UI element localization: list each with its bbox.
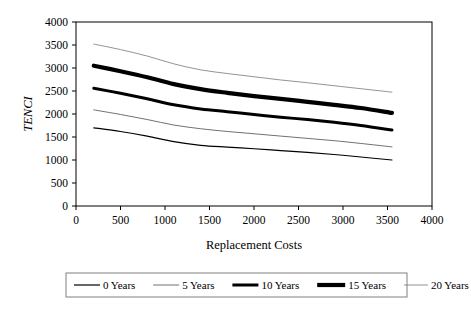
legend-items: 0 Years5 Years10 Years15 Years20 Years: [74, 279, 469, 291]
x-tick-label: 3500: [376, 214, 399, 226]
y-tick-label: 2000: [45, 108, 68, 120]
x-tick-label: 1500: [198, 214, 221, 226]
x-axis-title: Replacement Costs: [206, 238, 302, 252]
series-line-20-years: [94, 44, 392, 92]
chart-figure: 05001000150020002500300035004000 0500100…: [0, 0, 471, 311]
line-chart: 05001000150020002500300035004000 0500100…: [0, 0, 471, 311]
y-tick-label: 3000: [45, 62, 68, 74]
y-tick-label: 3500: [45, 39, 68, 51]
y-tick-label: 500: [51, 177, 69, 189]
series-line-5-years: [94, 110, 392, 147]
x-tick-label: 2000: [243, 214, 266, 226]
y-tick-label: 0: [62, 200, 68, 212]
legend-label-5-years: 5 Years: [182, 279, 214, 291]
legend-label-0-years: 0 Years: [103, 279, 135, 291]
x-tick-label: 2500: [287, 214, 310, 226]
x-tick-label: 1000: [154, 214, 177, 226]
x-axis: 05001000150020002500300035004000: [73, 206, 444, 226]
y-tick-label: 2500: [45, 85, 68, 97]
data-series-group: [94, 44, 392, 160]
legend-label-15-years: 15 Years: [348, 279, 386, 291]
y-tick-label: 4000: [45, 16, 68, 28]
y-axis-title: TENCI: [21, 95, 35, 131]
y-axis: 05001000150020002500300035004000: [45, 16, 76, 212]
legend-label-10-years: 10 Years: [261, 279, 299, 291]
x-tick-label: 3000: [332, 214, 355, 226]
y-tick-label: 1500: [45, 131, 68, 143]
legend-label-20-years: 20 Years: [431, 279, 469, 291]
chart-legend: 0 Years5 Years10 Years15 Years20 Years: [66, 273, 469, 297]
x-tick-label: 500: [112, 214, 130, 226]
series-line-15-years: [94, 66, 392, 113]
x-tick-label: 0: [73, 214, 79, 226]
x-tick-label: 4000: [421, 214, 444, 226]
y-tick-label: 1000: [45, 154, 68, 166]
